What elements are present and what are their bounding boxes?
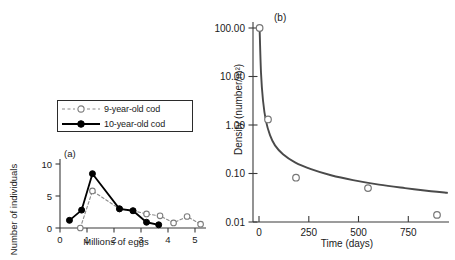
panel-b-x-axis-label: Time (days) [252, 238, 442, 249]
ytick-100-00: 100.00 [214, 23, 245, 34]
series-line [69, 174, 158, 225]
series-fitted-decay-curve [260, 28, 447, 193]
data-point [365, 185, 372, 192]
xtick-750: 750 [400, 227, 417, 238]
data-point [157, 213, 163, 219]
panel-a-axes [56, 159, 207, 233]
data-point [66, 217, 72, 223]
ytick-0: 0 [47, 223, 52, 234]
panel-b: (b) Density (number/m²) [212, 0, 455, 260]
panel-b-axes [249, 22, 450, 222]
series-line [80, 191, 200, 228]
panel-a-x-axis-label: Millions of eggs [46, 236, 186, 247]
data-point [79, 207, 85, 213]
series-10-year-old-cod [66, 171, 161, 228]
data-point [171, 220, 177, 226]
data-point [144, 211, 150, 217]
xtick-0: 0 [256, 227, 262, 238]
data-point [144, 219, 150, 225]
data-point [265, 116, 272, 123]
panel-b-x-tick-labels: 0 250 500 750 [256, 227, 417, 238]
data-point [130, 208, 136, 214]
data-point [156, 222, 162, 228]
data-point [434, 212, 441, 219]
ytick-10: 10 [41, 159, 52, 170]
ytick-0-01: 0.01 [226, 217, 246, 228]
data-point [293, 174, 300, 181]
panel-b-y-axis-label-text: Density (number/m²) [233, 64, 244, 155]
xtick-250: 250 [300, 227, 317, 238]
series-9-year-old-cod [77, 188, 203, 231]
panel-b-y-axis-label: Density (number/m²) [233, 34, 244, 186]
panel-b-plot: 0.01 0.10 1.00 10.00 100.00 0 250 500 75… [212, 0, 455, 238]
xtick-5: 5 [192, 234, 197, 245]
panel-b-label: (b) [274, 12, 286, 23]
xtick-500: 500 [350, 227, 367, 238]
panel-a-y-tick-labels: 0 5 10 [41, 159, 52, 234]
data-point [77, 225, 83, 231]
fitted-curve-path [260, 28, 447, 193]
data-point [198, 221, 204, 227]
data-point [89, 171, 95, 177]
data-point [90, 188, 96, 194]
data-point [116, 206, 122, 212]
data-point [184, 214, 190, 220]
ytick-5: 5 [47, 191, 52, 202]
figure-container: 9-year-old cod 10-year-old cod (a) Numbe… [0, 0, 455, 260]
panel-a: 9-year-old cod 10-year-old cod (a) Numbe… [0, 86, 212, 260]
panel-a-plot: 0 1 2 3 4 5 0 5 10 [0, 86, 212, 260]
data-point [256, 25, 263, 32]
